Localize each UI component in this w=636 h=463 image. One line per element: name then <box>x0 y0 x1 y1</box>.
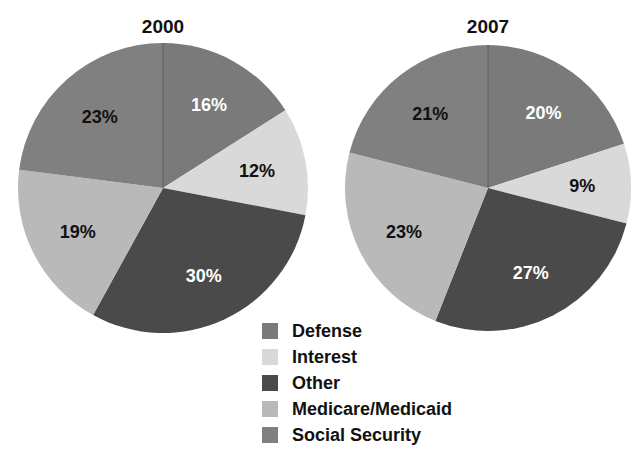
legend-label: Defense <box>292 321 362 342</box>
legend-label: Interest <box>292 347 357 368</box>
pie-2000: 200016%12%30%19%23% <box>18 16 308 333</box>
slice-percent-label: 19% <box>60 222 96 242</box>
legend-swatch <box>262 427 278 443</box>
slice-percent-label: 27% <box>513 263 549 283</box>
legend-swatch <box>262 349 278 365</box>
legend-swatch <box>262 323 278 339</box>
slice-percent-label: 20% <box>525 103 561 123</box>
legend-label: Medicare/Medicaid <box>292 399 452 420</box>
legend: Defense Interest Other Medicare/Medicaid… <box>262 318 452 448</box>
slice-percent-label: 23% <box>82 107 118 127</box>
slice-percent-label: 9% <box>569 176 595 196</box>
slice-percent-label: 21% <box>412 104 448 124</box>
legend-item-social-security: Social Security <box>262 422 452 448</box>
legend-item-interest: Interest <box>262 344 452 370</box>
legend-label: Other <box>292 373 340 394</box>
pie-title: 2007 <box>467 16 509 37</box>
slice-percent-label: 12% <box>239 161 275 181</box>
pie-title: 2000 <box>142 16 184 37</box>
legend-label: Social Security <box>292 425 421 446</box>
pie-2007: 200720%9%27%23%21% <box>345 16 631 331</box>
slice-percent-label: 30% <box>186 266 222 286</box>
legend-item-defense: Defense <box>262 318 452 344</box>
legend-swatch <box>262 375 278 391</box>
slice-percent-label: 23% <box>386 222 422 242</box>
legend-item-medicare-medicaid: Medicare/Medicaid <box>262 396 452 422</box>
legend-item-other: Other <box>262 370 452 396</box>
legend-swatch <box>262 401 278 417</box>
slice-percent-label: 16% <box>191 95 227 115</box>
